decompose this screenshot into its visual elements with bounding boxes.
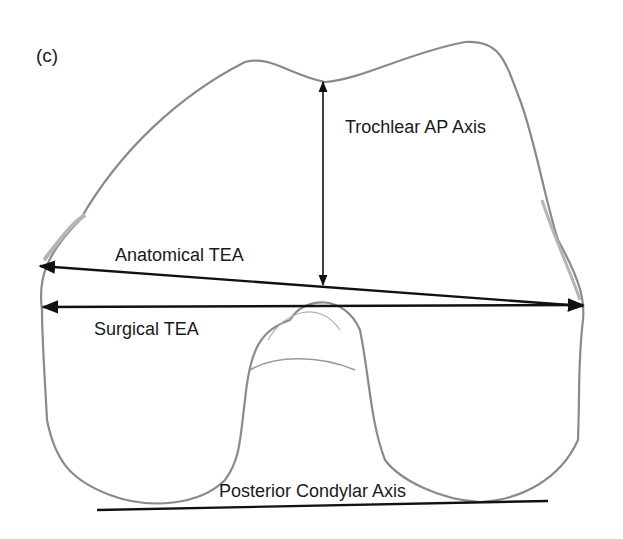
- femur-axes-diagram: (c) Trochlear AP Axis Anatomical TEA Sur…: [0, 0, 623, 539]
- anatomical-tea-line: [40, 266, 583, 306]
- anatomical-tea-label: Anatomical TEA: [115, 245, 244, 265]
- trochlear-ap-axis-label: Trochlear AP Axis: [345, 117, 486, 137]
- posterior-condylar-axis-label: Posterior Condylar Axis: [219, 481, 406, 501]
- panel-label: (c): [36, 45, 58, 66]
- surgical-tea-line: [43, 305, 583, 307]
- surgical-tea-label: Surgical TEA: [94, 319, 199, 339]
